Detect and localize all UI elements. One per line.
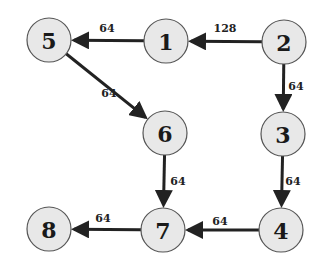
edge-2-to-3: 64 [283, 64, 304, 109]
edge-weight-label: 64 [170, 175, 186, 188]
edge-2-to-1: 128 [191, 22, 262, 42]
edge-weight-label: 64 [101, 87, 117, 100]
node-7: 7 [141, 208, 185, 252]
node-label: 5 [41, 28, 56, 54]
node-5: 5 [27, 18, 71, 62]
node-label: 3 [275, 122, 290, 148]
edge-arrow [282, 156, 283, 205]
node-label: 2 [276, 30, 291, 56]
edge-weight-label: 64 [95, 212, 111, 225]
edge-arrow [191, 41, 262, 42]
edge-weight-label: 64 [212, 215, 228, 228]
edge-4-to-7: 64 [188, 215, 259, 230]
edge-weight-label: 64 [288, 80, 304, 93]
graph-canvas: 12864646464646464 51263874 [0, 0, 324, 269]
edge-6-to-7: 64 [164, 155, 186, 205]
edge-arrow [164, 155, 165, 205]
node-1: 1 [144, 19, 188, 63]
node-label: 6 [157, 121, 172, 147]
node-label: 7 [155, 218, 170, 244]
edge-3-to-4: 64 [282, 156, 301, 205]
edge-arrow [66, 54, 145, 118]
edge-arrow [74, 229, 141, 230]
node-label: 4 [273, 218, 288, 244]
edge-weight-label: 128 [214, 22, 237, 35]
edge-1-to-5: 64 [74, 22, 144, 41]
node-6: 6 [143, 111, 187, 155]
edge-7-to-8: 64 [74, 212, 141, 230]
node-8: 8 [27, 207, 71, 251]
node-3: 3 [261, 112, 305, 156]
node-4: 4 [259, 208, 303, 252]
node-label: 1 [158, 29, 173, 55]
node-2: 2 [262, 20, 306, 64]
edge-weight-label: 64 [99, 22, 115, 35]
node-label: 8 [41, 217, 56, 243]
edge-arrow [74, 40, 144, 41]
edge-5-to-6: 64 [66, 54, 145, 118]
edge-weight-label: 64 [285, 175, 301, 188]
